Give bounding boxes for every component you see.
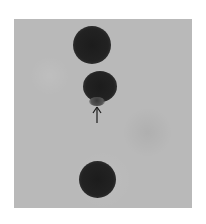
photo-panel — [14, 19, 192, 208]
arrow-up-icon — [91, 106, 103, 124]
protrusion — [89, 97, 105, 106]
figure-canvas — [0, 0, 206, 224]
bottom-spot — [79, 161, 116, 198]
top-spot — [73, 26, 111, 64]
